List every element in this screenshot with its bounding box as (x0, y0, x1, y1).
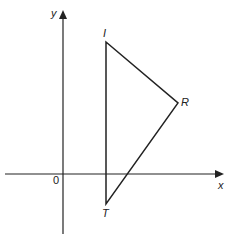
x-axis-label: x (217, 179, 224, 191)
y-axis-label: y (50, 7, 58, 19)
coordinate-diagram: y x 0 I R T (0, 0, 227, 237)
vertex-label-T: T (102, 207, 110, 219)
triangle-IRT (106, 42, 178, 204)
x-axis-arrow-icon (215, 170, 224, 178)
vertex-label-I: I (103, 27, 106, 39)
vertex-label-R: R (181, 96, 189, 108)
y-axis-arrow-icon (59, 10, 67, 19)
origin-label: 0 (53, 174, 59, 186)
